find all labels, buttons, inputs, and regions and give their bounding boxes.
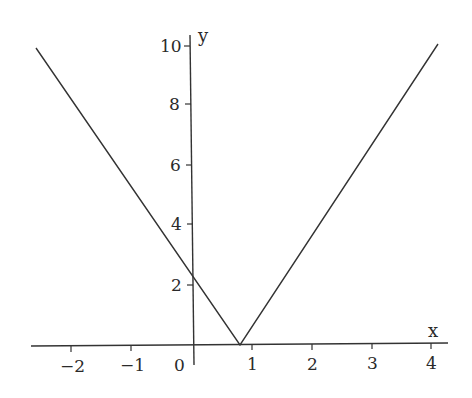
abs-function-line	[36, 44, 438, 345]
chart: −2 −1 0 1 2 3 4 2 4 6 8 10 y x	[0, 0, 472, 398]
x-tick-label: 3	[367, 353, 378, 373]
x-tick-label: −1	[120, 355, 145, 375]
y-tick-label: 2	[171, 275, 182, 295]
x-tick-label: 1	[247, 354, 258, 374]
x-tick-label: 0	[174, 355, 185, 375]
y-tick-label: 6	[170, 155, 181, 175]
y-tick-label: 4	[171, 214, 182, 234]
y-axis-label: y	[197, 25, 209, 46]
y-tick-label: 10	[160, 36, 182, 56]
y-ticks	[184, 46, 193, 285]
x-tick-label: 2	[307, 354, 318, 374]
x-tick-label: −2	[60, 356, 85, 376]
y-axis	[190, 35, 194, 365]
y-tick-label: 8	[169, 94, 180, 114]
x-tick-label: 4	[426, 353, 437, 373]
x-axis-label: x	[428, 320, 438, 341]
